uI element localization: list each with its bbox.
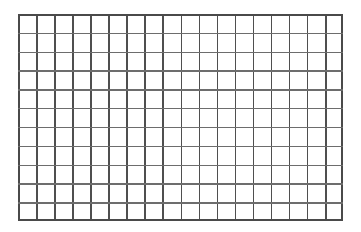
- gridline-horizontal-3: [18, 70, 343, 71]
- gridline-vertical-8: [162, 14, 164, 221]
- gridline-horizontal-4: [18, 89, 343, 90]
- gridline-horizontal-8: [18, 165, 343, 166]
- vertical-gridlines: [18, 14, 343, 221]
- gridline-vertical-4: [90, 14, 92, 221]
- grid-canvas: [0, 0, 361, 232]
- gridline-vertical-6: [126, 14, 128, 221]
- gridline-horizontal-10: [18, 202, 343, 203]
- gridline-horizontal-11: [18, 219, 343, 221]
- gridline-horizontal-7: [18, 146, 343, 147]
- gridline-horizontal-0: [18, 14, 343, 16]
- gridline-vertical-0: [18, 14, 20, 221]
- gridline-horizontal-6: [18, 127, 343, 128]
- gridline-vertical-11: [217, 14, 219, 221]
- gridline-horizontal-2: [18, 52, 343, 53]
- gridline-horizontal-9: [18, 183, 343, 184]
- gridline-vertical-14: [271, 14, 273, 221]
- gridline-horizontal-5: [18, 108, 343, 109]
- gridline-vertical-17: [325, 14, 327, 221]
- gridline-vertical-9: [181, 14, 183, 221]
- gridline-horizontal-1: [18, 33, 343, 34]
- grid-figure: [18, 14, 343, 221]
- gridline-vertical-7: [144, 14, 146, 221]
- gridline-vertical-1: [36, 14, 38, 221]
- gridline-vertical-18: [341, 14, 343, 221]
- gridline-vertical-3: [72, 14, 74, 221]
- gridline-vertical-15: [289, 14, 291, 221]
- gridline-vertical-13: [253, 14, 255, 221]
- gridline-vertical-12: [235, 14, 237, 221]
- gridline-vertical-10: [199, 14, 201, 221]
- horizontal-gridlines: [18, 14, 343, 221]
- gridline-vertical-5: [108, 14, 110, 221]
- gridline-vertical-16: [307, 14, 309, 221]
- gridline-vertical-2: [54, 14, 56, 221]
